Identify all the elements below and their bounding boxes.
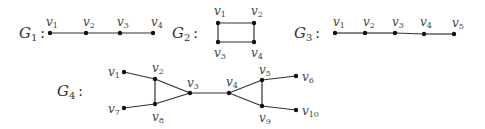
edge (395, 33, 424, 34)
vertex-dot (422, 32, 426, 36)
vertex-label: v3 (187, 76, 199, 91)
vertex-label: v3 (214, 46, 226, 61)
vertex-label: v3 (392, 15, 404, 30)
vertex-label: v4 (251, 46, 263, 61)
vertex-label: v4 (151, 15, 163, 30)
vertex-label: v1 (108, 65, 120, 80)
vertex-dot (363, 31, 367, 35)
vertex-label: v5 (452, 16, 464, 31)
vertex-label: v1 (214, 4, 226, 19)
edge (155, 93, 190, 104)
vertex-label: v9 (259, 111, 271, 126)
vertex-label: v1 (333, 15, 345, 30)
edge (124, 104, 155, 108)
vertex-dot (122, 106, 126, 110)
vertex-dot (84, 31, 88, 35)
edge (229, 93, 262, 106)
vertex-dot (216, 40, 220, 44)
vertex-label: v5 (259, 63, 271, 78)
vertex-dot (151, 31, 155, 35)
graph-g3: G3:v1v2v3v4v5 (294, 15, 464, 43)
vertex-dot (260, 78, 264, 82)
graph-label: G1: (19, 24, 45, 43)
edge (155, 79, 190, 93)
vertex-dot (122, 70, 126, 74)
vertex-dot (294, 74, 298, 78)
vertex-label: v2 (152, 61, 164, 76)
vertex-dot (333, 31, 337, 35)
vertex-dot (260, 104, 264, 108)
vertex-label: v2 (251, 4, 263, 19)
vertex-label: v6 (302, 70, 314, 85)
vertex-dot (252, 21, 256, 25)
vertex-dot (118, 31, 122, 35)
vertex-dot (393, 31, 397, 35)
vertex-dot (216, 21, 220, 25)
edge (124, 72, 155, 79)
vertex-dot (188, 91, 192, 95)
graph-label: G2: (172, 24, 198, 43)
vertex-label: v7 (108, 102, 120, 117)
vertex-label: v8 (152, 110, 164, 125)
graph-label: G3: (294, 24, 320, 43)
graph-g1: G1:v1v2v3v4 (19, 15, 163, 43)
vertex-dot (153, 102, 157, 106)
vertex-dot (153, 77, 157, 81)
graphs-svg: G1:v1v2v3v4G2:v1v2v3v4G3:v1v2v3v4v5G4:v1… (0, 0, 485, 129)
vertex-dot (48, 31, 52, 35)
vertex-dot (294, 108, 298, 112)
edge (262, 106, 296, 110)
graph-g4: G4:v1v2v3v4v5v6v7v8v9v10 (57, 61, 319, 126)
vertex-label: v2 (83, 15, 95, 30)
vertex-label: v4 (420, 15, 432, 30)
graph-label: G4: (57, 82, 83, 101)
graph-g2: G2:v1v2v3v4 (172, 4, 263, 61)
graph-diagram-canvas: G1:v1v2v3v4G2:v1v2v3v4G3:v1v2v3v4v5G4:v1… (0, 0, 485, 129)
vertex-label: v2 (363, 15, 375, 30)
vertex-label: v1 (46, 15, 58, 30)
vertex-dot (227, 91, 231, 95)
vertex-label: v3 (117, 15, 129, 30)
vertex-dot (252, 40, 256, 44)
vertex-label: v10 (302, 104, 319, 119)
vertex-label: v4 (226, 75, 238, 90)
vertex-dot (452, 32, 456, 36)
